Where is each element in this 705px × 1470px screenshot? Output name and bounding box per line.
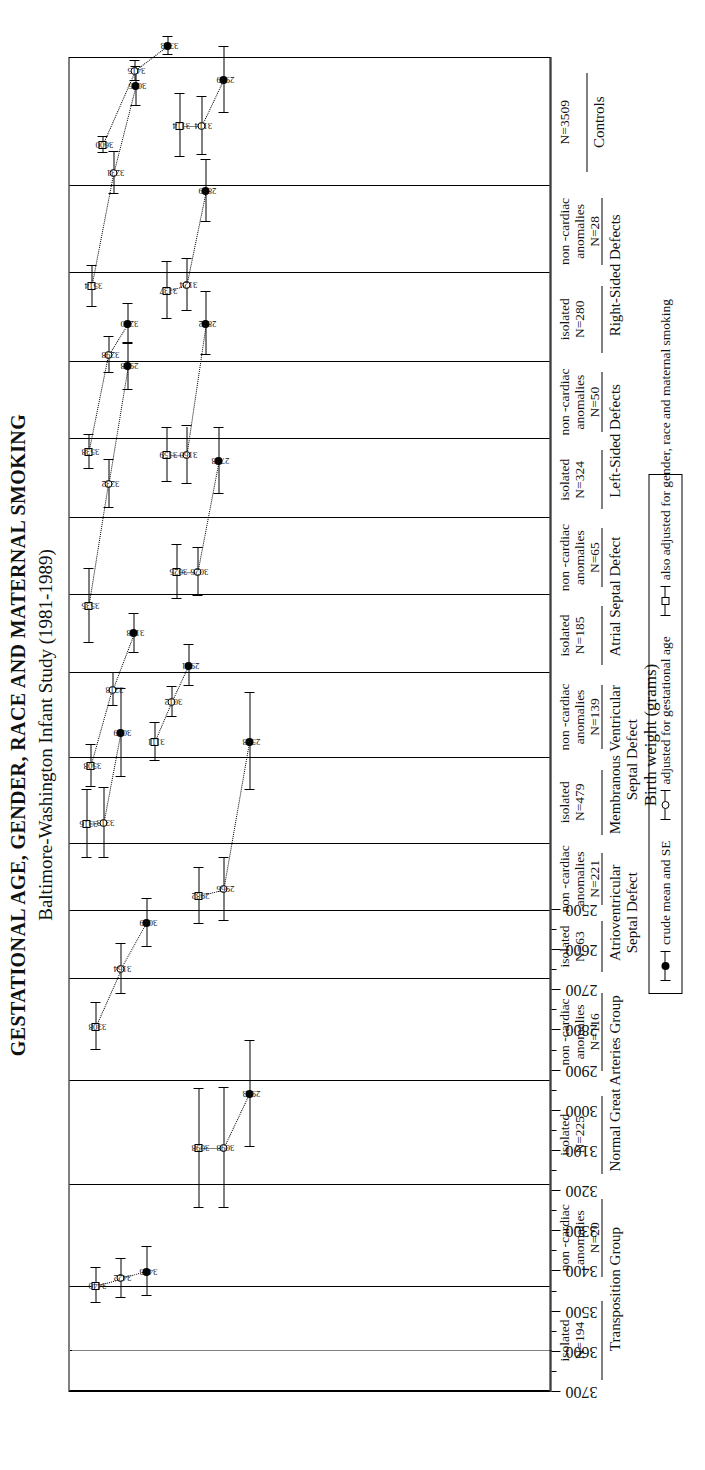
point-value-label: 2921	[181, 661, 199, 670]
error-bar-cap	[193, 1207, 203, 1208]
subgroup-type: non -cardiacanomalies	[556, 524, 586, 591]
error-bar-cap	[196, 96, 206, 97]
axis-minor-tick	[551, 1050, 556, 1051]
subgroup-n: N=221	[586, 845, 601, 913]
subgroup-type: isolated	[556, 298, 571, 340]
panel-controls: 360034153353	[69, 56, 549, 186]
error-bar-cap	[115, 1297, 125, 1298]
legend-marker-open-square	[659, 586, 671, 616]
caption-rule	[601, 993, 602, 1071]
point-value-label: 2598	[242, 737, 260, 746]
subgroup-n: N=194	[571, 1289, 586, 1392]
panel-atrial-septal-defect: 353532322938315931602832	[69, 518, 549, 674]
point-value-label: 3231	[106, 168, 124, 177]
error-bar-cap	[161, 261, 171, 262]
point-value-label: 3422	[113, 1273, 131, 1282]
error-bar-cap	[213, 493, 223, 494]
caption-rule	[601, 606, 602, 665]
error-bar-cap	[200, 291, 210, 292]
error-bar-cap	[115, 1258, 125, 1259]
error-bar-cap	[171, 544, 181, 545]
error-bar-cap	[166, 686, 176, 687]
error-bar-cap	[218, 920, 228, 921]
group-name: Right-Sided Defects	[606, 188, 623, 364]
subgroup-type: isolated	[556, 926, 571, 968]
subgroup-n: N=479	[571, 760, 586, 845]
error-bar-cap	[192, 595, 202, 596]
error-bar-cap	[181, 483, 191, 484]
error-bar-cap	[218, 112, 228, 113]
error-bar-cap	[213, 427, 223, 428]
point-value-label: 2748	[211, 456, 229, 465]
point-value-label: 3353	[160, 41, 178, 50]
error-bar-cap	[85, 744, 95, 745]
legend-glyph	[661, 962, 669, 970]
error-bar-cap	[81, 789, 91, 790]
error-bar-cap	[162, 54, 172, 55]
legend-item: also adjusted for gender, race and mater…	[657, 299, 673, 616]
point-value-label: 3089	[113, 728, 131, 737]
caption-rule	[601, 770, 602, 835]
subgroup-caption: isolatedN=63	[556, 913, 586, 981]
caption-rule	[601, 286, 602, 353]
error-bar-cap	[128, 652, 138, 653]
point-value-label: 3514	[84, 281, 102, 290]
group-name: Left-Sided Defects	[606, 363, 623, 519]
caption-rule	[601, 685, 602, 750]
error-bar-cap	[149, 760, 159, 761]
error-bar-cap	[183, 685, 193, 686]
subgroup-caption: non -cardiacanomaliesN=50	[556, 363, 601, 441]
subgroup-n: N=65	[586, 519, 601, 597]
caption-rule	[601, 450, 602, 509]
point-value-label: 3405	[139, 1267, 157, 1276]
error-bar-cap	[141, 898, 151, 899]
point-value-label: 3164	[113, 964, 131, 973]
subgroup-n: N=116	[586, 980, 601, 1083]
error-bar-cap	[107, 672, 117, 673]
error-bar-cap	[83, 468, 93, 469]
error-bar-cap	[244, 1146, 254, 1147]
legend-label: adjusted for gestational age	[657, 636, 673, 784]
error-bar-cap	[218, 857, 228, 858]
point-value-label: 3025	[169, 567, 187, 576]
legend-marker-open-circle	[659, 790, 671, 820]
subgroup-caption: non -cardiacanomaliesN=20	[556, 1186, 601, 1289]
error-bar-cap	[149, 722, 159, 723]
subgroup-divider	[69, 517, 549, 595]
point-value-label: 3232	[101, 479, 119, 488]
error-bar-cap	[181, 258, 191, 259]
error-bar-cap	[115, 943, 125, 944]
axis-minor-tick	[551, 1170, 556, 1171]
subgroup-type: isolated	[556, 781, 571, 823]
subgroup-type: non -cardiacanomalies	[556, 369, 586, 436]
point-value-label: 3316	[79, 819, 97, 828]
caption-rule	[601, 853, 602, 904]
x-axis: 3700360035003400330032003100300029002800…	[550, 57, 551, 1392]
error-bar-cap	[193, 1088, 203, 1089]
panel-membranous-ventricular-septal-defect: 350833183178302530262748	[69, 673, 549, 844]
subgroup-caption: isolatedN=280	[556, 275, 586, 363]
subgroup-type: non -cardiacanomalies	[556, 1204, 586, 1271]
point-value-label: 3178	[126, 628, 144, 637]
error-bar-cap	[90, 1302, 100, 1303]
panel-atrioventricular-septal-defect: 331633133089311130122921	[69, 844, 549, 980]
subgroup-divider	[69, 672, 549, 757]
point-value-label: 3098	[216, 1143, 234, 1152]
subgroup-type: non -cardiacanomalies	[556, 198, 586, 265]
error-bar-cap	[81, 857, 91, 858]
error-bar-cap	[171, 598, 181, 599]
caption-rule	[601, 1301, 602, 1379]
point-value-label: 3111	[147, 737, 164, 746]
point-value-label: 3012	[164, 697, 182, 706]
error-bar-cap	[103, 336, 113, 337]
reference-line-3600	[69, 1350, 551, 1351]
legend-item: adjusted for gestational age	[657, 636, 673, 820]
subgroup-type: isolated	[556, 614, 571, 656]
subgroup-caption: non -cardiacanomaliesN=65	[556, 519, 601, 597]
point-value-label: 2963	[242, 1089, 260, 1098]
error-bar-cap	[161, 318, 171, 319]
subgroup-caption: isolatedN=479	[556, 760, 586, 845]
point-value-label: 3313	[96, 818, 114, 827]
error-bar-cap	[218, 46, 228, 47]
error-bar-cap	[86, 306, 96, 307]
